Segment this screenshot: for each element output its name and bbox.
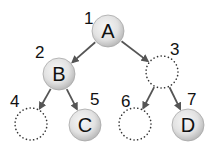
tree-node-5: C5 [69, 90, 101, 141]
tree-node-4: 4 [10, 92, 47, 140]
edge-arrow-2-to-4 [40, 89, 51, 108]
edge-arrow-1-to-3 [122, 41, 148, 61]
node-index-label: 3 [170, 40, 179, 59]
nodes: A1B234C56D7 [10, 9, 204, 141]
tree-node-2: B2 [35, 43, 75, 90]
node-letter: C [78, 114, 92, 136]
edge-arrow-2-to-5 [67, 89, 77, 109]
edge-arrow-3-to-7 [169, 87, 180, 109]
edge-arrow-1-to-2 [73, 42, 96, 62]
node-index-label: 5 [90, 90, 99, 109]
node-index-label: 2 [35, 43, 44, 62]
node-index-label: 6 [121, 92, 130, 111]
node-index-label: 7 [187, 90, 196, 109]
tree-node-3: 3 [146, 40, 179, 88]
empty-node-dotted-circle [146, 56, 178, 88]
node-letter: A [101, 20, 115, 42]
edge-arrow-3-to-6 [143, 87, 154, 108]
empty-node-dotted-circle [119, 108, 151, 140]
node-letter: B [52, 63, 65, 85]
tree-node-7: D7 [172, 90, 204, 141]
binary-tree-diagram: A1B234C56D7 [0, 0, 216, 151]
empty-node-dotted-circle [15, 108, 47, 140]
tree-node-6: 6 [119, 92, 151, 140]
node-letter: D [181, 114, 195, 136]
tree-node-1: A1 [84, 9, 124, 47]
node-index-label: 1 [84, 9, 93, 28]
node-index-label: 4 [10, 92, 19, 111]
